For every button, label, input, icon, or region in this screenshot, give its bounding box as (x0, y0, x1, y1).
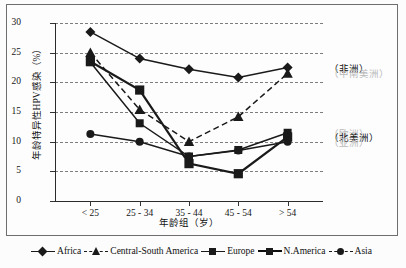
data-point-triangle (184, 136, 194, 145)
data-point-circle (136, 138, 144, 146)
legend-diamond-icon (31, 246, 55, 257)
x-tick-mark (238, 201, 239, 206)
x-tick-mark (90, 201, 91, 206)
data-point-circle (86, 130, 94, 138)
series-africa (85, 27, 292, 83)
data-point-circle (234, 147, 242, 155)
chart-figure: 年龄特异性HPV感染（%） 051015202530 < 2525 - 3435… (0, 0, 406, 268)
chart-legend: AfricaCentral-South AmericaEuropeN.Ameri… (6, 240, 398, 262)
chart-frame: 年龄特异性HPV感染（%） 051015202530 < 2525 - 3435… (6, 4, 398, 236)
legend-square-icon (258, 246, 282, 257)
x-tick-mark (288, 201, 289, 206)
legend-item-europe[interactable]: Europe (200, 246, 256, 257)
legend-circle-icon (329, 246, 353, 257)
legend-label: Africa (56, 246, 82, 256)
legend-label: Asia (354, 246, 373, 256)
y-tick-label: 20 (0, 76, 21, 86)
data-point-square (234, 169, 243, 178)
data-point-square (136, 119, 144, 127)
x-axis-title: 年龄组（岁） (55, 215, 323, 229)
legend-label: Central-South America (109, 246, 199, 256)
data-point-triangle (85, 47, 95, 56)
series-layer (55, 23, 323, 201)
data-point-triangle (282, 68, 292, 77)
annotation-label: （中南美洲） (329, 66, 389, 80)
y-tick-label: 25 (0, 47, 21, 57)
x-tick-mark (189, 201, 190, 206)
legend-triangle-icon (84, 246, 108, 257)
y-tick-label: 0 (0, 195, 21, 205)
y-tick-label: 30 (0, 17, 21, 27)
legend-square-icon (201, 246, 225, 257)
legend-item-africa[interactable]: Africa (30, 246, 83, 257)
plot-area: 051015202530 < 2525 - 3435 - 4445 - 54> … (55, 23, 323, 201)
data-point-circle (284, 138, 292, 146)
legend-item-central-south-america[interactable]: Central-South America (83, 246, 200, 257)
legend-item-asia[interactable]: Asia (328, 246, 374, 257)
x-tick-mark (140, 201, 141, 206)
legend-label: N.America (283, 246, 327, 256)
data-point-diamond (135, 54, 145, 64)
data-point-diamond (233, 73, 243, 83)
annotation-label: （亚洲） (329, 135, 369, 149)
y-axis-title: 年龄特异性HPV感染（%） (29, 17, 43, 187)
legend-item-n-america[interactable]: N.America (257, 246, 328, 257)
data-point-diamond (85, 27, 95, 37)
y-tick-label: 15 (0, 106, 21, 116)
data-point-circle (185, 153, 193, 161)
series-central-south-america (85, 47, 293, 145)
y-tick-label: 10 (0, 136, 21, 146)
data-point-square (135, 85, 144, 94)
legend-label: Europe (226, 246, 255, 256)
data-point-square (86, 57, 95, 66)
y-tick-label: 5 (0, 165, 21, 175)
data-point-diamond (184, 64, 194, 74)
